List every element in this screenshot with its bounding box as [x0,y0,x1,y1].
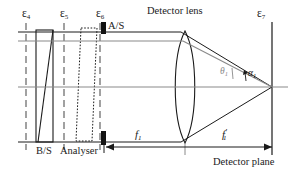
back-focal-length-label: f′1 [222,129,231,140]
upper-marginal-ray [18,32,272,87]
back-focal-dimension [185,144,272,151]
beam-splitter-diagonal [38,30,53,142]
beam-splitter-element [36,30,53,142]
lower-marginal-ray [18,87,272,142]
alpha-angle-label: α1 [248,69,256,79]
analyser-label: Analyser [60,146,98,157]
front-focal-left-arrowhead [106,144,114,151]
surface-label-eps5: ε5 [60,8,68,20]
optical-diagram-figure: ε4 ε5 ε6 ε7 A/S Detector lens B/S Analys… [0,0,298,174]
detector-lens-element [175,31,195,155]
detector-lens-label: Detector lens [147,6,203,17]
analyser-element [76,28,97,141]
surface-label-eps4: ε4 [22,8,30,20]
theta-angle-label: θ1 [220,67,228,77]
back-focal-right-arrowhead [264,144,272,151]
theta-angle-tick [232,68,233,79]
analyser-body [76,28,97,141]
surface-label-eps7: ε7 [257,8,265,20]
gray-ray-refracted [183,41,272,87]
surface-label-eps6: ε6 [96,8,104,20]
front-focal-length-label: f1 [135,129,142,140]
aperture-stop-label: A/S [108,21,124,32]
detector-plane-label: Detector plane [213,157,275,168]
beam-splitter-label: B/S [36,146,52,157]
